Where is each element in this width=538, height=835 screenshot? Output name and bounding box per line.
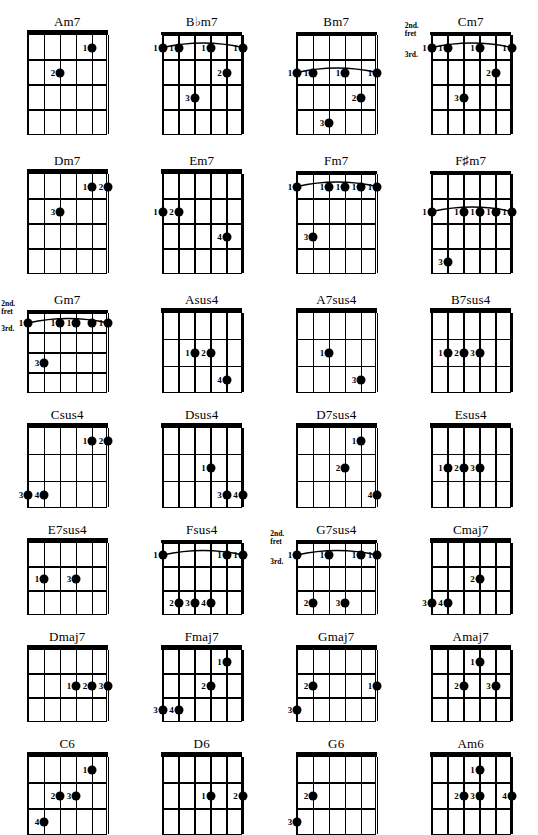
fret-line [297,481,375,482]
finger-dot [427,207,436,216]
string-line [361,650,363,721]
finger-number-label: 1 [368,551,374,560]
finger-number-label: 1 [83,182,89,191]
finger-number-label: 4 [201,599,207,608]
fret-line [163,808,241,809]
chord-diagram-Cmaj7[interactable]: Cmaj7234 [431,522,511,615]
chord-diagram-Cm7[interactable]: Cm71111232nd.fret3rd. [431,14,511,135]
chord-diagram-D7sus4[interactable]: D7sus4124 [296,407,376,508]
chord-diagram-Em7[interactable]: Em7124 [162,153,242,274]
fretboard-wrap: 111123 [296,35,376,135]
chord-diagram-Dm7[interactable]: Dm7123 [27,153,107,274]
finger-number-label: 1 [83,437,89,446]
finger-dot [357,182,366,191]
finger-number-label: 2 [304,682,310,691]
chord-diagram-B7sus4[interactable]: B7sus4123 [431,292,511,393]
chord-name-label: Csus4 [51,407,84,422]
nut-line [161,423,242,428]
chord-diagram-Amaj7[interactable]: Amaj7123 [431,629,511,722]
chord-diagram-Asus4[interactable]: Asus4124 [162,292,242,393]
finger-number-label: 1 [502,43,508,52]
finger-number-label: 3 [67,575,73,584]
finger-number-label: 2 [169,599,175,608]
chord-diagram-Fm7[interactable]: Fm7111113 [296,153,376,274]
fret-position-marker-above: 2nd.fret [405,22,419,39]
finger-number-label: 1 [304,68,310,77]
string-line [313,313,315,392]
fret-line [297,109,375,110]
finger-number-label: 1 [470,658,476,667]
chord-diagram-Csus4[interactable]: Csus41234 [27,407,107,508]
fret-line [432,84,510,85]
string-line [194,757,196,834]
finger-dot [443,257,452,266]
chord-diagram-G6[interactable]: G623 [296,736,376,835]
nut-line [27,538,108,543]
finger-number-label: 1 [201,464,207,473]
finger-dot [174,706,183,715]
fret-line [163,339,241,340]
fret-line [163,198,241,199]
string-line [178,313,180,392]
chord-diagram-D6[interactable]: D612 [162,736,242,835]
finger-dot [72,319,81,328]
chord-diagram-Gm7[interactable]: Gm7111132nd.fret3rd. [27,292,107,393]
chord-row: Csus41234Dsus4134D7sus4124Esus4123 [0,407,538,508]
finger-dot [341,599,350,608]
finger-dot [341,464,350,473]
finger-dot [309,232,318,241]
finger-dot [341,68,350,77]
chord-name-label: Am6 [457,736,484,751]
finger-dot [309,682,318,691]
string-line [431,428,433,507]
chord-diagram-Gmaj7[interactable]: Gmaj7213 [296,629,376,722]
finger-dot [40,359,49,368]
chord-diagram-Bm7[interactable]: B♭m7111123 [162,14,242,135]
chord-diagram-Fsus4[interactable]: Fsus4111234 [162,522,242,615]
top-fret-line [432,174,510,175]
string-line [361,757,363,834]
finger-number-label: 3 [454,93,460,102]
chord-diagram-Fmaj7[interactable]: Fmaj71234 [162,629,242,722]
finger-dot [206,349,215,358]
finger-dot [507,792,516,801]
chord-diagram-Dmaj7[interactable]: Dmaj7123 [27,629,107,722]
finger-number-label: 2 [201,682,207,691]
finger-number-label: 3 [19,490,25,499]
fret-line [163,109,241,110]
chord-diagram-Esus4[interactable]: Esus4123 [431,407,511,508]
chord-diagram-Bm7[interactable]: Bm7111123 [296,14,376,135]
string-line [76,428,78,507]
chord-diagram-E7sus4[interactable]: E7sus413 [27,522,107,615]
fretboard: 124 [296,428,376,508]
finger-dot [158,706,167,715]
string-line [329,428,331,507]
chord-diagram-Fm7[interactable]: F♯m7111113 [431,153,511,274]
string-line [28,650,30,721]
fretboard: 111123 [296,35,376,135]
string-line [60,543,62,614]
fret-line [28,782,106,783]
chord-diagram-A7sus4[interactable]: A7sus413 [296,292,376,393]
fretboard: 134 [162,428,242,508]
fret-line [28,84,106,85]
chord-diagram-C6[interactable]: C61234 [27,736,107,835]
finger-dot [459,682,468,691]
fretboard-wrap: 12 [27,35,107,135]
chord-diagram-Am7[interactable]: Am712 [27,14,107,135]
finger-number-label: 2 [336,464,342,473]
fret-line [28,109,106,110]
chord-name-label: Dm7 [54,153,81,168]
top-fret-line [432,35,510,36]
fret-line [163,59,241,60]
fretboard-wrap: 1111232nd.fret3rd. [296,543,376,615]
top-fret-line [163,543,241,544]
nut-line [296,308,377,313]
nut-line [161,308,242,313]
finger-number-label: 1 [19,319,25,328]
chord-diagram-Am6[interactable]: Am61234 [431,736,511,835]
chord-diagram-Dsus4[interactable]: Dsus4134 [162,407,242,508]
finger-number-label: 1 [153,207,159,216]
chord-diagram-G7sus4[interactable]: G7sus41111232nd.fret3rd. [296,522,376,615]
finger-dot [88,766,97,775]
